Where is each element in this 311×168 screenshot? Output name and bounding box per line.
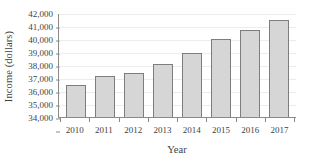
x-axis-tick-label: 2014 (177, 124, 206, 138)
bar-series (59, 14, 296, 117)
x-axis-tick-label: 2010 (60, 124, 89, 138)
x-axis-tick-label: 2017 (265, 124, 294, 138)
y-axis-tick-label: 40,000 (28, 36, 53, 45)
bar-2014 (182, 53, 202, 117)
y-axis-title-label: Income (dollars) (4, 30, 15, 101)
x-axis-tick-mark (265, 118, 266, 122)
bar-slot (207, 14, 236, 117)
bar-2015 (211, 39, 231, 117)
y-axis-tick-label: 42,000 (28, 10, 53, 19)
y-axis-tick-label: 41,000 (28, 23, 53, 32)
bar-slot (236, 14, 265, 117)
x-axis-tick-mark (89, 118, 90, 122)
x-axis-tick-mark (119, 118, 120, 122)
x-axis-tick-label: 2011 (89, 124, 118, 138)
plot-area (58, 14, 296, 118)
x-axis-tick-mark (294, 118, 295, 122)
bar-slot (178, 14, 207, 117)
bar-slot (148, 14, 177, 117)
x-axis-tick-mark (148, 118, 149, 122)
bar-2016 (240, 30, 260, 117)
x-axis-tick-mark-group (58, 118, 296, 123)
y-axis-tick-label-group: 34,00035,00036,00037,00038,00039,00040,0… (16, 14, 56, 118)
bar-slot (61, 14, 90, 117)
bar-slot (119, 14, 148, 117)
bar-2011 (95, 76, 115, 117)
bar-slot (90, 14, 119, 117)
x-axis-tick-mark (60, 118, 61, 122)
x-axis-tick-label: 2015 (206, 124, 235, 138)
bar-2012 (124, 73, 144, 117)
x-axis-tick-label-group: 20102011201220132014201520162017 (58, 124, 296, 138)
x-axis-tick-label: 2012 (119, 124, 148, 138)
x-axis-tick-label: 2016 (236, 124, 265, 138)
x-axis-tick-mark (236, 118, 237, 122)
y-axis-tick-label: 34,000 (28, 114, 53, 123)
x-axis-title: Year (58, 144, 296, 155)
bar-2010 (66, 85, 86, 118)
y-axis-tick-label: 38,000 (28, 62, 53, 71)
bar-chart-figure: Income (dollars) 34,00035,00036,00037,00… (0, 0, 311, 168)
x-axis-tick-mark (177, 118, 178, 122)
x-axis-tick-label: 2013 (148, 124, 177, 138)
bar-2017 (269, 20, 289, 118)
x-axis-tick-mark (206, 118, 207, 122)
bar-slot (265, 14, 294, 117)
y-axis-tick-label: 36,000 (28, 88, 53, 97)
bar-2013 (153, 64, 173, 117)
y-axis-tick-label: 39,000 (28, 49, 53, 58)
y-axis-tick-label: 37,000 (28, 75, 53, 84)
y-axis-tick-label: 35,000 (28, 101, 53, 110)
